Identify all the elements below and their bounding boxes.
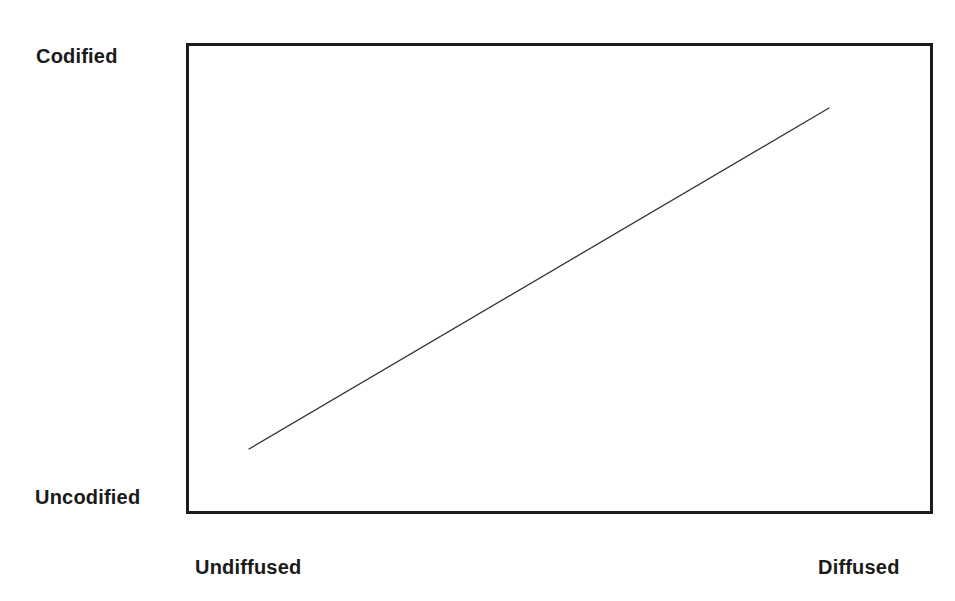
- x-axis-right-label: Diffused: [818, 556, 900, 579]
- x-axis-left-label: Undiffused: [195, 556, 301, 579]
- y-axis-top-label: Codified: [36, 45, 118, 68]
- y-axis-bottom-label: Uncodified: [35, 486, 140, 509]
- plot-frame: [186, 43, 933, 514]
